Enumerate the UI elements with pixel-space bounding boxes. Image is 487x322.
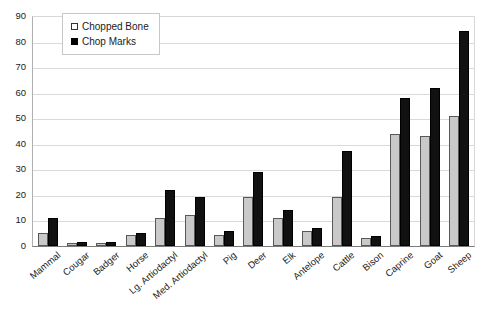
- x-tick-label: Med. Artiodactyl: [151, 250, 209, 301]
- x-tick-label: Goat: [422, 250, 444, 271]
- bar: [361, 238, 371, 246]
- bar-group: [298, 16, 327, 246]
- bar: [253, 172, 263, 246]
- bar: [312, 228, 322, 246]
- bar-group: [239, 16, 268, 246]
- bar: [155, 218, 165, 246]
- bar: [38, 233, 48, 246]
- bar: [136, 233, 146, 246]
- y-tick-label: 70: [4, 62, 26, 72]
- bar: [126, 235, 136, 247]
- legend-item-chop-marks: Chop Marks: [71, 34, 149, 49]
- bar-group: [445, 16, 474, 246]
- bar: [430, 88, 440, 246]
- bar-group: [268, 16, 297, 246]
- y-tick-label: 40: [4, 139, 26, 149]
- chart-legend: Chopped Bone Chop Marks: [62, 13, 160, 55]
- bar: [243, 197, 253, 246]
- bar-chart: 0102030405060708090 Chopped Bone Chop Ma…: [0, 0, 487, 322]
- bar-group: [33, 16, 62, 246]
- x-tick-label: Bison: [361, 250, 385, 273]
- bar: [106, 242, 116, 246]
- bar: [96, 243, 106, 246]
- x-tick-label: Caprine: [383, 250, 415, 279]
- y-tick-label: 50: [4, 113, 26, 123]
- bar: [77, 242, 87, 246]
- legend-swatch-icon: [71, 38, 78, 45]
- bar: [371, 236, 381, 246]
- bar-group: [415, 16, 444, 246]
- bar-group: [327, 16, 356, 246]
- bar: [195, 197, 205, 246]
- x-tick-label: Deer: [246, 250, 268, 271]
- bar: [332, 197, 342, 246]
- x-tick-label: Badger: [91, 250, 121, 277]
- bar: [390, 134, 400, 246]
- bar: [224, 231, 234, 246]
- x-tick-label: Mammal: [28, 250, 62, 281]
- y-tick-label: 80: [4, 37, 26, 47]
- bar: [273, 218, 283, 246]
- bar: [342, 151, 352, 246]
- bar: [449, 116, 459, 246]
- bar: [48, 218, 58, 246]
- legend-swatch-icon: [71, 23, 78, 30]
- bar-group: [386, 16, 415, 246]
- bar-group: [180, 16, 209, 246]
- bar: [185, 215, 195, 246]
- bar: [67, 243, 77, 246]
- legend-label: Chop Marks: [82, 37, 136, 47]
- bar: [283, 210, 293, 246]
- bar: [214, 235, 224, 247]
- y-tick-label: 60: [4, 88, 26, 98]
- x-axis: MammalCougarBadgerHorseLg. ArtiodactylMe…: [0, 248, 487, 322]
- x-tick-label: Pig: [222, 250, 239, 266]
- bar: [420, 136, 430, 246]
- bar: [165, 190, 175, 246]
- bar-group: [209, 16, 238, 246]
- x-tick-label: Antelope: [292, 250, 327, 281]
- legend-label: Chopped Bone: [82, 22, 149, 32]
- bar-group: [356, 16, 385, 246]
- y-tick-label: 10: [4, 215, 26, 225]
- y-tick-label: 30: [4, 164, 26, 174]
- bar: [302, 231, 312, 246]
- y-tick-label: 90: [4, 11, 26, 21]
- x-tick-label: Cattle: [331, 250, 356, 273]
- legend-item-chopped-bone: Chopped Bone: [71, 19, 149, 34]
- bar: [400, 98, 410, 246]
- y-tick-label: 20: [4, 190, 26, 200]
- x-tick-label: Elk: [281, 250, 297, 266]
- x-tick-label: Cougar: [61, 250, 91, 277]
- x-tick-label: Sheep: [446, 250, 473, 275]
- bar: [459, 31, 469, 246]
